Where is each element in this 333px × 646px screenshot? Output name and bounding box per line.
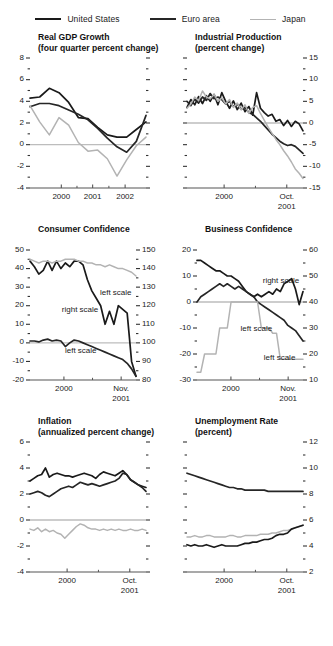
ytick-label-consumer-confidence-right-1: 90 bbox=[142, 356, 151, 365]
legend-label-united-states: United States bbox=[67, 14, 119, 24]
annotation-business-confidence-0: right scale bbox=[263, 276, 299, 285]
ytick-label-consumer-confidence-left-0: -20 bbox=[0, 375, 24, 384]
ytick-label-consumer-confidence-left-1: -10 bbox=[0, 356, 24, 365]
ytick-label-unemployment-rate-right-5: 12 bbox=[309, 437, 318, 446]
panel-subtitle-industrial-production: (percent change) bbox=[195, 43, 264, 53]
ytick-label-real-gdp-growth-left-3: 2 bbox=[0, 118, 24, 127]
panel-inflation: Inflation(annualized percent change)-4-2… bbox=[0, 414, 166, 606]
ytick-label-industrial-production-right-0: -15 bbox=[309, 183, 321, 192]
panel-business-confidence: Business Confidence-30-20-10010201020304… bbox=[167, 222, 333, 414]
ytick-label-industrial-production-right-1: -10 bbox=[309, 161, 321, 170]
xtick-label2-unemployment-rate-1: 2001 bbox=[265, 586, 309, 595]
ytick-label-business-confidence-left-5: 20 bbox=[167, 245, 191, 254]
ytick-label-business-confidence-right-5: 60 bbox=[309, 245, 318, 254]
panel-title-unemployment-rate: Unemployment Rate bbox=[195, 416, 278, 426]
xtick-label-unemployment-rate-0: 2000 bbox=[202, 576, 246, 585]
legend-label-japan: Japan bbox=[282, 14, 306, 24]
ytick-label-industrial-production-right-5: 10 bbox=[309, 74, 318, 83]
plot-area-business-confidence: Business Confidence-30-20-10010201020304… bbox=[167, 222, 333, 414]
panel-grid: Real GDP Growth(four quarter percent cha… bbox=[0, 30, 333, 630]
legend-item-united-states: United States bbox=[35, 14, 119, 24]
ytick-label-consumer-confidence-right-7: 150 bbox=[142, 245, 155, 254]
ytick-label-industrial-production-right-6: 15 bbox=[309, 53, 318, 62]
ytick-label-industrial-production-right-2: -5 bbox=[309, 139, 316, 148]
ytick-label-industrial-production-right-3: 0 bbox=[309, 118, 313, 127]
ytick-label-business-confidence-left-3: 0 bbox=[167, 297, 191, 306]
chart-legend: United States Euro area Japan bbox=[0, 8, 333, 30]
ytick-label-consumer-confidence-left-7: 50 bbox=[0, 245, 24, 254]
ytick-label-inflation-left-5: 6 bbox=[0, 437, 24, 446]
legend-swatch-euro-area bbox=[150, 18, 176, 20]
ytick-label-inflation-left-2: 0 bbox=[0, 515, 24, 524]
panel-real-gdp-growth: Real GDP Growth(four quarter percent cha… bbox=[0, 30, 166, 222]
ytick-label-business-confidence-right-4: 50 bbox=[309, 271, 318, 280]
ytick-label-inflation-left-4: 4 bbox=[0, 463, 24, 472]
ytick-label-consumer-confidence-left-4: 20 bbox=[0, 300, 24, 309]
panel-title-business-confidence: Business Confidence bbox=[205, 224, 292, 234]
panel-subtitle-real-gdp-growth: (four quarter percent change) bbox=[38, 43, 158, 53]
ytick-label-unemployment-rate-right-3: 8 bbox=[309, 489, 313, 498]
xtick-label-business-confidence-1: Nov. bbox=[266, 384, 310, 393]
ytick-label-real-gdp-growth-left-2: 0 bbox=[0, 139, 24, 148]
annotation-consumer-confidence-0: right scale bbox=[62, 305, 98, 314]
plot-area-industrial-production: Industrial Production(percent change)-15… bbox=[167, 30, 333, 222]
annotation-consumer-confidence-2: left scale bbox=[65, 346, 97, 355]
panel-industrial-production: Industrial Production(percent change)-15… bbox=[167, 30, 333, 222]
ytick-label-consumer-confidence-right-3: 110 bbox=[142, 319, 155, 328]
ytick-label-business-confidence-left-0: -30 bbox=[167, 375, 191, 384]
annotation-business-confidence-2: left scale bbox=[264, 353, 296, 362]
ytick-label-business-confidence-right-2: 30 bbox=[309, 323, 318, 332]
ytick-label-inflation-left-0: -4 bbox=[0, 567, 24, 576]
panel-subtitle-unemployment-rate: (percent) bbox=[195, 427, 232, 437]
ytick-label-consumer-confidence-left-3: 10 bbox=[0, 319, 24, 328]
xtick-label-industrial-production-1: Oct. bbox=[265, 192, 309, 201]
annotation-business-confidence-1: left scale bbox=[239, 324, 273, 334]
ytick-label-consumer-confidence-left-2: 0 bbox=[0, 337, 24, 346]
panel-title-inflation: Inflation bbox=[38, 416, 71, 426]
ytick-label-business-confidence-left-4: 10 bbox=[167, 271, 191, 280]
xtick-label-consumer-confidence-0: 2000 bbox=[42, 384, 86, 393]
ytick-label-unemployment-rate-right-1: 4 bbox=[309, 541, 313, 550]
panel-title-consumer-confidence: Consumer Confidence bbox=[38, 224, 130, 234]
ytick-label-real-gdp-growth-left-5: 6 bbox=[0, 74, 24, 83]
ytick-label-consumer-confidence-left-6: 40 bbox=[0, 263, 24, 272]
ytick-label-unemployment-rate-right-2: 6 bbox=[309, 515, 313, 524]
ytick-label-consumer-confidence-right-5: 130 bbox=[142, 282, 155, 291]
ytick-label-consumer-confidence-right-6: 140 bbox=[142, 263, 155, 272]
panel-title-industrial-production: Industrial Production bbox=[195, 32, 281, 42]
xtick-label2-consumer-confidence-1: 2001 bbox=[99, 394, 143, 403]
xtick-label-industrial-production-0: 2000 bbox=[202, 192, 246, 201]
ytick-label-business-confidence-right-3: 40 bbox=[309, 297, 318, 306]
plot-area-real-gdp-growth: Real GDP Growth(four quarter percent cha… bbox=[0, 30, 166, 222]
ytick-label-unemployment-rate-right-0: 2 bbox=[309, 567, 313, 576]
panel-unemployment-rate: Unemployment Rate(percent)246810122000Oc… bbox=[167, 414, 333, 606]
xtick-label-unemployment-rate-1: Oct. bbox=[265, 576, 309, 585]
legend-item-euro-area: Euro area bbox=[150, 14, 220, 24]
ytick-label-industrial-production-right-4: 5 bbox=[309, 96, 313, 105]
ytick-label-business-confidence-right-1: 20 bbox=[309, 349, 318, 358]
ytick-label-consumer-confidence-right-2: 100 bbox=[142, 337, 155, 346]
xtick-label2-inflation-1: 2001 bbox=[108, 586, 152, 595]
ytick-label-unemployment-rate-right-4: 10 bbox=[309, 463, 318, 472]
legend-item-japan: Japan bbox=[250, 14, 306, 24]
ytick-label-consumer-confidence-left-5: 30 bbox=[0, 282, 24, 291]
panel-consumer-confidence: Consumer Confidence-20-10010203040508090… bbox=[0, 222, 166, 414]
ytick-label-inflation-left-1: -2 bbox=[0, 541, 24, 550]
ytick-label-consumer-confidence-right-0: 80 bbox=[142, 375, 151, 384]
xtick-label-consumer-confidence-1: Nov. bbox=[99, 384, 143, 393]
xtick-label-real-gdp-growth-2: 2002 bbox=[103, 192, 147, 201]
ytick-label-real-gdp-growth-left-0: -4 bbox=[0, 183, 24, 192]
ytick-label-real-gdp-growth-left-1: -2 bbox=[0, 161, 24, 170]
xtick-label2-industrial-production-1: 2001 bbox=[265, 202, 309, 211]
xtick-label-inflation-1: Oct. bbox=[108, 576, 152, 585]
figure-sheet: United States Euro area Japan Real GDP G… bbox=[0, 0, 333, 646]
plot-area-consumer-confidence: Consumer Confidence-20-10010203040508090… bbox=[0, 222, 166, 414]
legend-swatch-japan bbox=[250, 19, 276, 20]
xtick-label-inflation-0: 2000 bbox=[45, 576, 89, 585]
ytick-label-real-gdp-growth-left-4: 4 bbox=[0, 96, 24, 105]
plot-area-unemployment-rate: Unemployment Rate(percent)246810122000Oc… bbox=[167, 414, 333, 606]
legend-swatch-united-states bbox=[35, 18, 61, 20]
xtick-label-business-confidence-0: 2000 bbox=[209, 384, 253, 393]
legend-label-euro-area: Euro area bbox=[182, 14, 220, 24]
ytick-label-business-confidence-left-2: -10 bbox=[167, 323, 191, 332]
